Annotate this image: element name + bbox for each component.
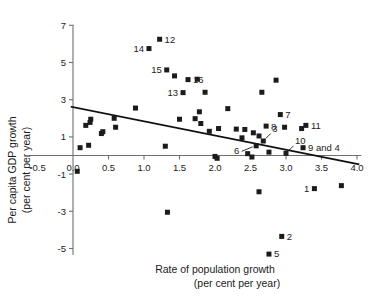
points-layer	[75, 37, 344, 257]
data-point[interactable]	[264, 124, 269, 129]
data-point[interactable]	[133, 106, 138, 111]
data-point[interactable]	[242, 127, 247, 132]
data-point[interactable]	[78, 145, 83, 150]
data-point[interactable]	[299, 126, 304, 131]
point-label-6: 6	[234, 145, 239, 156]
point-label-15: 15	[151, 64, 162, 75]
data-point[interactable]	[266, 150, 271, 155]
data-point[interactable]	[163, 144, 168, 149]
data-point[interactable]	[282, 125, 287, 130]
data-point[interactable]	[164, 67, 169, 72]
data-point[interactable]	[177, 117, 182, 122]
y-tick-label-7: 7	[61, 20, 66, 31]
label-leader	[266, 133, 271, 138]
y-tick-label--1: -1	[58, 169, 66, 180]
point-label-10: 10	[295, 135, 306, 146]
data-point[interactable]	[193, 116, 198, 121]
data-point[interactable]	[181, 90, 186, 95]
data-point[interactable]	[203, 90, 208, 95]
data-point[interactable]	[198, 121, 203, 126]
x-axis-title-line2: (per cent per year)	[194, 277, 280, 289]
data-point[interactable]	[157, 37, 162, 42]
data-point[interactable]	[257, 133, 262, 138]
data-point[interactable]	[339, 183, 344, 188]
x-tick-label-0.5: 0.5	[102, 162, 115, 173]
scatter-chart: 7531-1-3-5-0.50.00.51.01.52.02.53.03.54.…	[0, 0, 371, 307]
data-point[interactable]	[257, 189, 262, 194]
point-label-9-and-4: 9 and 4	[308, 142, 340, 153]
plot-canvas: 7531-1-3-5-0.50.00.51.01.52.02.53.03.54.…	[0, 0, 371, 307]
data-point[interactable]	[234, 127, 239, 132]
data-point[interactable]	[259, 90, 264, 95]
point-label-2: 2	[287, 231, 292, 242]
data-point[interactable]	[83, 123, 88, 128]
data-point[interactable]	[254, 143, 259, 148]
point-label-7: 7	[285, 109, 290, 120]
point-label-16: 16	[193, 74, 204, 85]
x-tick-label-1.0: 1.0	[137, 162, 150, 173]
data-point[interactable]	[146, 46, 151, 51]
data-point[interactable]	[216, 126, 221, 131]
point-label-11: 11	[311, 120, 321, 131]
point-label-1: 1	[304, 183, 309, 194]
y-axis-title-line1: Per capita GDP growth	[6, 116, 18, 223]
y-tick-label-5: 5	[61, 57, 66, 68]
y-tick-label--3: -3	[58, 206, 66, 217]
data-point[interactable]	[225, 106, 230, 111]
data-point[interactable]	[88, 120, 93, 125]
data-point[interactable]	[303, 123, 308, 128]
data-point[interactable]	[249, 154, 254, 159]
point-label-14: 14	[133, 43, 144, 54]
data-point[interactable]	[251, 130, 256, 135]
data-point[interactable]	[215, 156, 220, 161]
x-tick-label-3.0: 3.0	[279, 162, 292, 173]
data-point[interactable]	[279, 234, 284, 239]
data-point[interactable]	[172, 73, 177, 78]
label-leader	[242, 147, 253, 152]
data-point[interactable]	[165, 210, 170, 215]
x-tick-label-2.5: 2.5	[244, 162, 257, 173]
point-label-5: 5	[274, 248, 279, 259]
x-tick-label-3.5: 3.5	[315, 162, 328, 173]
point-label-12: 12	[165, 34, 176, 45]
data-point[interactable]	[284, 151, 289, 156]
y-tick-label-1: 1	[61, 131, 66, 142]
data-point[interactable]	[239, 135, 244, 140]
data-point[interactable]	[261, 138, 266, 143]
data-point[interactable]	[197, 109, 202, 114]
x-tick-label-1.5: 1.5	[173, 162, 186, 173]
point-label-8: 8	[271, 121, 276, 132]
data-point[interactable]	[112, 116, 117, 121]
data-point[interactable]	[207, 129, 212, 134]
y-tick-label--5: -5	[58, 243, 66, 254]
data-point[interactable]	[186, 77, 191, 82]
data-point[interactable]	[86, 143, 91, 148]
x-axis-title-line1: Rate of population growth	[155, 263, 275, 275]
x-tick-label-2.0: 2.0	[208, 162, 221, 173]
data-point[interactable]	[278, 112, 283, 117]
point-label-13: 13	[167, 87, 178, 98]
y-axis-title-line2: (per cent per year)	[20, 127, 32, 213]
data-point[interactable]	[245, 151, 250, 156]
y-tick-label-3: 3	[61, 94, 66, 105]
data-point[interactable]	[75, 169, 80, 174]
data-point[interactable]	[99, 131, 104, 136]
data-point[interactable]	[274, 78, 279, 83]
data-point[interactable]	[113, 125, 118, 130]
data-point[interactable]	[266, 252, 271, 257]
axes-layer: 7531-1-3-5-0.50.00.51.01.52.02.53.03.54.…	[29, 20, 364, 255]
data-point[interactable]	[312, 186, 317, 191]
